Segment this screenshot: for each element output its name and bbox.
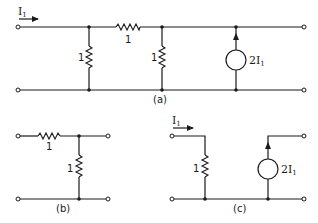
node [77, 134, 81, 138]
input-terminal-bottom [170, 197, 174, 201]
node [234, 25, 238, 29]
shunt-resistor-1-icon [86, 27, 92, 90]
node [203, 197, 207, 201]
source-label: 2I1 [249, 54, 265, 68]
output-terminal-bottom [302, 197, 306, 201]
output-terminal-top [106, 134, 110, 138]
node [87, 88, 91, 92]
input-current-label: I1 [18, 5, 27, 19]
shunt-resistor-2-label: 1 [151, 52, 157, 63]
node [266, 197, 270, 201]
shunt-resistor-label: 1 [193, 163, 199, 174]
series-resistor-icon [38, 133, 60, 139]
caption-c: (c) [233, 203, 246, 214]
caption-b: (b) [56, 203, 70, 214]
circuit-figure: I1 1 1 1 2I1 [0, 0, 318, 223]
diagram-a: I1 1 1 1 2I1 [16, 5, 306, 105]
series-resistor-icon [116, 24, 140, 30]
series-resistor-label: 1 [125, 34, 131, 45]
input-terminal-top [170, 134, 174, 138]
shunt-resistor-1-label: 1 [78, 52, 84, 63]
input-terminal-top [16, 25, 20, 29]
output-terminal-top [302, 25, 306, 29]
shunt-resistor-label: 1 [67, 163, 73, 174]
shunt-resistor-icon [76, 136, 82, 199]
node [160, 88, 164, 92]
dependent-current-source-icon [226, 27, 246, 90]
shunt-resistor-2-icon [159, 27, 165, 90]
output-terminal-bottom [302, 88, 306, 92]
diagram-c: I1 1 2I1 (c) [170, 114, 306, 214]
node [77, 197, 81, 201]
output-terminal-bottom [106, 197, 110, 201]
shunt-resistor-icon [202, 155, 208, 199]
output-terminal-top [302, 134, 306, 138]
caption-a: (a) [153, 94, 167, 105]
input-wire [174, 136, 205, 155]
diagram-b: 1 1 (b) [16, 133, 110, 214]
node [87, 25, 91, 29]
input-current-label: I1 [172, 114, 181, 128]
input-terminal-bottom [16, 197, 20, 201]
node [234, 88, 238, 92]
input-terminal-bottom [16, 88, 20, 92]
dependent-current-source-icon [258, 136, 302, 199]
series-resistor-label: 1 [46, 141, 52, 152]
input-terminal-top [16, 134, 20, 138]
node [160, 25, 164, 29]
source-label: 2I1 [281, 163, 297, 177]
